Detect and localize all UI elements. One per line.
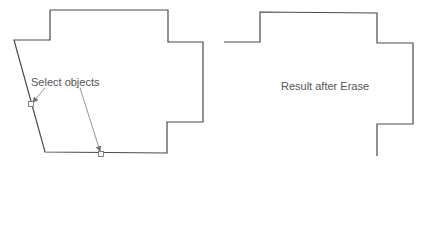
selection-leader-arrow bbox=[80, 88, 100, 151]
selection-leader-arrow bbox=[33, 88, 45, 102]
selection-pick-box bbox=[99, 152, 104, 157]
select-objects-label: Select objects bbox=[31, 76, 99, 88]
result-after-erase-label: Result after Erase bbox=[281, 80, 369, 92]
selection-pick-box bbox=[29, 102, 34, 107]
